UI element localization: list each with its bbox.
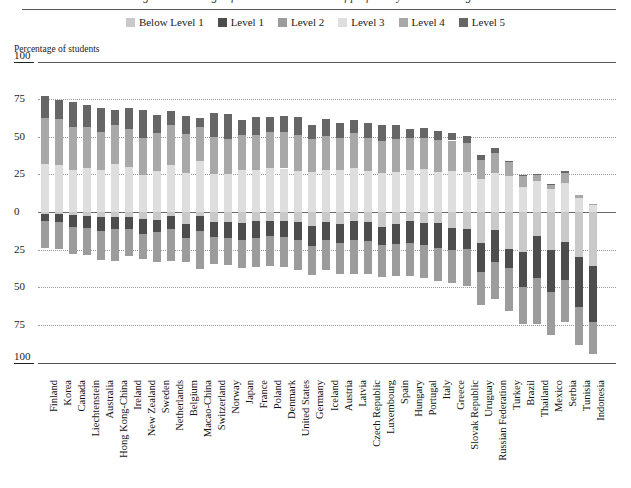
bar-segment — [294, 212, 302, 222]
bar-segment — [589, 205, 597, 212]
bar-segment — [364, 222, 372, 241]
x-label-text: Uruguay — [484, 380, 495, 417]
x-label-luxembourg: Luxembourg — [386, 326, 397, 380]
bar-segment — [392, 125, 400, 139]
x-label-text: Ireland — [133, 380, 144, 410]
bar-segment — [167, 111, 175, 125]
bar-segment — [547, 212, 555, 250]
x-label-indonesia: Indonesia — [596, 339, 607, 380]
bar-segment — [463, 229, 471, 249]
bar-segment — [575, 198, 583, 212]
bar-segment — [336, 170, 344, 212]
bar-segment — [55, 165, 63, 212]
x-label-text: Slovak Republic — [470, 380, 481, 450]
bar-segment — [111, 217, 119, 229]
bar-segment — [280, 132, 288, 168]
bar-segment — [182, 224, 190, 238]
x-label-text: Belgium — [189, 380, 200, 416]
x-label-text: Luxembourg — [386, 380, 397, 434]
bar-segment — [477, 212, 485, 243]
x-label-netherlands: Netherlands — [175, 329, 186, 380]
bar-segment — [167, 125, 175, 165]
bar-segment — [448, 250, 456, 283]
x-label-text: France — [259, 380, 270, 409]
bar-segment — [463, 143, 471, 172]
bar-segment — [41, 96, 49, 118]
bar-segment — [139, 234, 147, 259]
bar-segment — [252, 238, 260, 266]
bar-segment — [533, 236, 541, 278]
bar-segment — [322, 170, 330, 212]
bar-segment — [589, 212, 597, 266]
x-label-belgium: Belgium — [189, 344, 200, 380]
bar-segment — [575, 257, 583, 306]
bar-segment — [210, 137, 218, 174]
bar-segment — [350, 240, 358, 273]
bar-segment — [308, 139, 316, 172]
bar-segment — [448, 141, 456, 171]
x-label-greece: Greece — [456, 350, 467, 380]
bar-segment — [322, 212, 330, 222]
bar-segment — [505, 249, 513, 268]
bar-column — [224, 0, 232, 380]
bar-column — [533, 0, 541, 380]
bar-segment — [83, 105, 91, 127]
bar-column — [252, 0, 260, 380]
bar-segment — [41, 221, 49, 248]
x-label-hong-kong-china: Hong Kong-China — [119, 302, 130, 380]
bar-column — [83, 0, 91, 380]
bar-segment — [167, 216, 175, 230]
x-label-text: Portugal — [428, 380, 439, 416]
x-label-poland: Poland — [273, 351, 284, 380]
bar-segment — [196, 118, 204, 126]
bar-column — [589, 0, 597, 380]
bar-segment — [491, 153, 499, 172]
bar-segment — [97, 170, 105, 212]
bar-segment — [477, 160, 485, 179]
bar-segment — [491, 212, 499, 230]
bar-segment — [364, 241, 372, 273]
bar-segment — [139, 110, 147, 138]
bar-segment — [378, 212, 386, 227]
bar-segment — [210, 113, 218, 137]
bar-column — [266, 0, 274, 380]
bar-segment — [111, 229, 119, 261]
x-label-text: Mexico — [554, 380, 565, 412]
bar-column — [519, 0, 527, 380]
x-label-text: New Zealand — [147, 380, 158, 436]
bar-segment — [322, 119, 330, 136]
x-label-text: Finland — [49, 380, 60, 412]
bar-column — [336, 0, 344, 380]
bar-segment — [336, 224, 344, 243]
bar-segment — [308, 125, 316, 139]
bar-segment — [280, 221, 288, 237]
bar-segment — [308, 226, 316, 246]
bar-segment — [69, 227, 77, 254]
bar-segment — [434, 212, 442, 223]
bar-segment — [182, 116, 190, 134]
x-label-russian-federation: Russian Federation — [498, 299, 509, 380]
x-label-hungary: Hungary — [414, 343, 425, 380]
bar-column — [55, 0, 63, 380]
bar-segment — [463, 249, 471, 285]
bar-segment — [561, 171, 569, 172]
bar-segment — [378, 125, 386, 141]
bar-segment — [167, 229, 175, 261]
x-label-canada: Canada — [77, 349, 88, 381]
x-label-thailand: Thailand — [540, 343, 551, 380]
x-label-text: Poland — [273, 380, 284, 409]
bar-segment — [41, 214, 49, 221]
bar-segment — [519, 187, 527, 212]
bar-segment — [280, 212, 288, 221]
bar-segment — [434, 131, 442, 140]
bar-segment — [350, 120, 358, 134]
x-label-text: Italy — [442, 380, 453, 399]
bar-segment — [533, 278, 541, 324]
x-label-sweden: Sweden — [161, 347, 172, 380]
x-label-austria: Austria — [344, 349, 355, 380]
bar-segment — [491, 262, 499, 299]
bar-segment — [252, 212, 260, 221]
bar-segment — [83, 127, 91, 168]
bar-column — [167, 0, 175, 380]
x-label-text: Germany — [315, 380, 326, 419]
